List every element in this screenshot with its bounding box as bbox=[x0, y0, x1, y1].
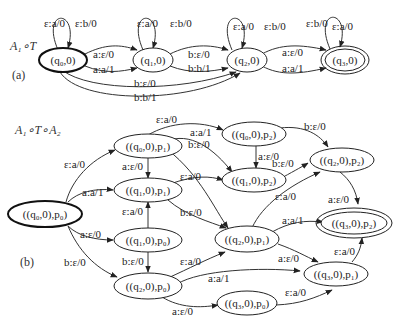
edge-label: b:ε/0 bbox=[122, 255, 144, 267]
edge-label: ε:b/0 bbox=[264, 20, 286, 32]
edge-label: a:a/1 bbox=[282, 214, 303, 226]
edge-label: b:b/1 bbox=[188, 62, 211, 74]
edge-label: b:ε/0 bbox=[180, 206, 202, 218]
svg-text:((q₃,0),p₂): ((q₃,0),p₂) bbox=[332, 217, 377, 230]
part-a-label: (a) bbox=[12, 68, 25, 82]
edge-label: b:ε/0 bbox=[188, 48, 210, 60]
edge-label: a:ε/0 bbox=[172, 305, 194, 317]
edge-label: a:ε/0 bbox=[278, 252, 300, 264]
edge-label: a:ε/0 bbox=[328, 193, 350, 205]
part-a: A₁∘T (a) ε:a/0 ε:b/0 ε:a/0 ε:b/0 ε:a/0 ε… bbox=[9, 17, 369, 103]
edge-label: ε:a/0 bbox=[137, 17, 159, 29]
part-b: A₁∘T∘A₂ (b) ε:a/0 a:a/1 a:ε/0 b:ε/0 ε:a/… bbox=[8, 113, 392, 317]
edge-label: a:a/1 bbox=[190, 126, 211, 138]
edge-label: ε:b/0 bbox=[170, 17, 192, 29]
state-q1p2: ((q₁,0),p₂) bbox=[222, 168, 286, 192]
edge-label: ε:a/0 bbox=[122, 205, 144, 217]
edge-label: ε:a/0 bbox=[275, 190, 297, 202]
edge-label: b:ε/0 bbox=[272, 157, 294, 169]
svg-text:((q₁,0),p₂): ((q₁,0),p₂) bbox=[232, 174, 277, 187]
state-q2p0: ((q₂,0),p₀) bbox=[114, 273, 182, 299]
part-b-label: (b) bbox=[20, 255, 34, 269]
automata-diagram: A₁∘T (a) ε:a/0 ε:b/0 ε:a/0 ε:b/0 ε:a/0 ε… bbox=[0, 0, 398, 329]
edge-label: ε:a/0 bbox=[334, 245, 356, 257]
svg-text:((q₀,0),p₀): ((q₀,0),p₀) bbox=[23, 208, 68, 221]
edge-label: ε:a/0 bbox=[332, 20, 354, 32]
edge-label: ε:a/0 bbox=[180, 255, 202, 267]
edge-label: a:a/1 bbox=[82, 186, 103, 198]
svg-text:((q₂,0),p₂): ((q₂,0),p₂) bbox=[320, 154, 365, 167]
state-q0p1: ((q₀,0),p₁) bbox=[114, 134, 182, 158]
state-q1: (q₁,0) bbox=[133, 48, 173, 72]
state-q3-final: (q₃,0) bbox=[321, 46, 369, 74]
edge-label: a:ε/0 bbox=[93, 48, 115, 60]
edge-q2p0-q3p1 bbox=[177, 269, 300, 284]
edge-label: a:ε/0 bbox=[80, 228, 102, 240]
svg-text:((q₃,0),p₀): ((q₃,0),p₀) bbox=[225, 297, 270, 310]
part-a-title: A₁∘T bbox=[9, 39, 38, 53]
svg-text:((q₂,0),p₀): ((q₂,0),p₀) bbox=[126, 280, 171, 293]
svg-text:((q₀,0),p₁): ((q₀,0),p₁) bbox=[126, 140, 171, 153]
state-q0p0-initial: ((q₀,0),p₀) bbox=[8, 201, 82, 227]
svg-text:((q₃,0),p₁): ((q₃,0),p₁) bbox=[314, 268, 359, 281]
state-q1p0: ((q₁,0),p₀) bbox=[114, 228, 182, 252]
state-q3p2-final: ((q₃,0),p₂) bbox=[316, 208, 392, 238]
svg-text:((q₂,0),p₁): ((q₂,0),p₁) bbox=[225, 233, 270, 246]
edge-label: ε:b/0 bbox=[75, 17, 97, 29]
edge-label: ε:b/0 bbox=[306, 17, 328, 29]
edge-label: a:a/1 bbox=[282, 62, 303, 74]
edge-label: b:ε/0 bbox=[134, 77, 156, 89]
edge-label: ε:a/0 bbox=[44, 17, 66, 29]
svg-text:(q₂,0): (q₂,0) bbox=[235, 54, 260, 67]
edge-label: ε:a/0 bbox=[285, 286, 307, 298]
svg-text:(q₁,0): (q₁,0) bbox=[141, 54, 166, 67]
state-q1p1: ((q₁,0),p₁) bbox=[114, 178, 182, 202]
edge-label: ε:a/0 bbox=[233, 20, 255, 32]
state-q3p0: ((q₃,0),p₀) bbox=[217, 291, 277, 315]
state-q2p1: ((q₂,0),p₁) bbox=[215, 226, 279, 252]
svg-text:((q₁,0),p₁): ((q₁,0),p₁) bbox=[126, 184, 171, 197]
part-b-title: A₁∘T∘A₂ bbox=[14, 123, 61, 137]
svg-text:(q₀,0): (q₀,0) bbox=[51, 54, 76, 67]
state-q2p2: ((q₂,0),p₂) bbox=[310, 148, 374, 172]
state-q0: (q₀,0) bbox=[39, 48, 87, 72]
state-q0p2: ((q₀,0),p₂) bbox=[222, 122, 286, 146]
edge-label: b:b/1 bbox=[134, 91, 157, 103]
edge-label: a:a/1 bbox=[93, 63, 114, 75]
state-q2: (q₂,0) bbox=[227, 48, 267, 72]
svg-text:((q₀,0),p₂): ((q₀,0),p₂) bbox=[232, 128, 277, 141]
edge-label: a:a/1 bbox=[208, 272, 229, 284]
edge-label: ε:a/0 bbox=[156, 113, 178, 125]
state-q3p1: ((q₃,0),p₁) bbox=[304, 262, 368, 286]
edge-q0p1-q0p2 bbox=[148, 124, 223, 135]
svg-text:(q₃,0): (q₃,0) bbox=[333, 54, 358, 67]
edge-label: b:ε/0 bbox=[304, 120, 326, 132]
edge-label: ε:a/0 bbox=[64, 158, 86, 170]
edge-label: b:ε/0 bbox=[188, 138, 210, 150]
edge-label: ε:a/0 bbox=[180, 170, 202, 182]
svg-text:((q₁,0),p₀): ((q₁,0),p₀) bbox=[126, 234, 171, 247]
edge-label: b:ε/0 bbox=[64, 256, 86, 268]
edge-label: a:ε/0 bbox=[282, 46, 304, 58]
edge-label: a:ε/0 bbox=[122, 160, 144, 172]
